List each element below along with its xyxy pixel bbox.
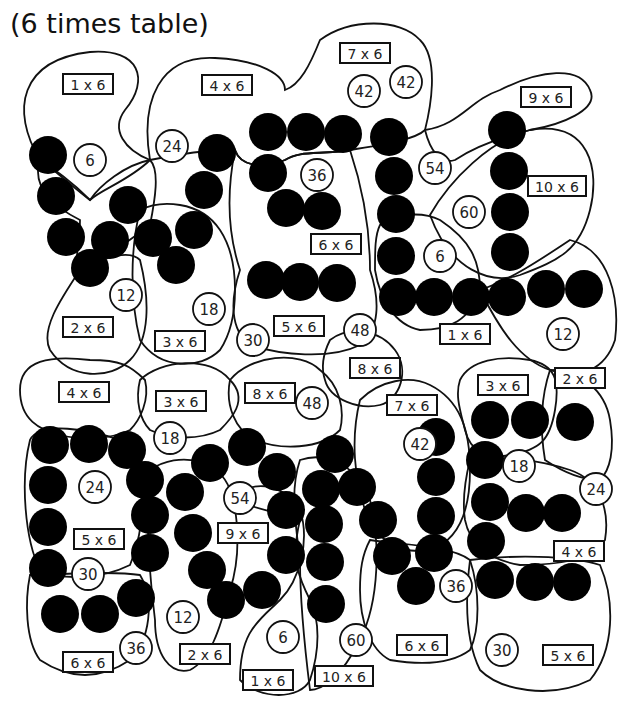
answer-circle[interactable]: 6 [267,621,299,653]
filled-dot [490,152,528,190]
svg-text:2 x 6: 2 x 6 [563,371,598,387]
multiplication-label: 5 x 6 [543,645,593,665]
filled-dot [249,113,287,151]
answer-value: 36 [307,167,326,185]
multiplication-label: 9 x 6 [218,523,268,543]
filled-dot [556,403,594,441]
filled-dot [37,177,75,215]
svg-text:6 x 6: 6 x 6 [319,237,354,253]
multiplication-label: 2 x 6 [63,317,113,337]
answer-value: 12 [553,326,572,344]
filled-dot [70,425,108,463]
answer-value: 48 [350,322,369,340]
answer-circle[interactable]: 12 [547,318,579,350]
answer-value: 30 [492,642,511,660]
answer-circle[interactable]: 12 [167,601,199,633]
answer-value: 36 [446,578,465,596]
answer-value: 30 [243,332,262,350]
answer-circle[interactable]: 36 [120,632,152,664]
filled-dot [228,428,266,466]
filled-dot [306,543,344,581]
answer-value: 60 [459,204,478,222]
multiplication-label: 3 x 6 [478,375,528,395]
answer-circle[interactable]: 60 [453,196,485,228]
multiplication-label: 6 x 6 [311,234,361,254]
answer-circle[interactable]: 42 [390,66,422,98]
answer-circle[interactable]: 30 [72,558,104,590]
answer-circle[interactable]: 36 [301,159,333,191]
answer-value: 24 [586,481,605,499]
multiplication-label: 10 x 6 [528,176,586,196]
answer-circle[interactable]: 12 [110,279,142,311]
answer-value: 54 [425,160,444,178]
multiplication-label: 7 x 6 [387,395,437,415]
svg-text:10 x 6: 10 x 6 [322,669,366,685]
answer-circle[interactable]: 42 [404,428,436,460]
filled-dot [467,522,505,560]
filled-dot [375,157,413,195]
answer-circle[interactable]: 30 [237,324,269,356]
answer-circle[interactable]: 54 [224,482,256,514]
answer-value: 24 [162,138,181,156]
filled-dot [318,264,356,302]
svg-text:3 x 6: 3 x 6 [164,394,199,410]
answer-circle[interactable]: 42 [348,75,380,107]
multiplication-label: 4 x 6 [59,382,109,402]
puzzle-board: 6244242365460612183048121848422418542430… [0,0,632,716]
filled-dot [31,426,69,464]
filled-dot [373,537,411,575]
multiplication-label: 2 x 6 [555,368,605,388]
filled-dot [338,468,376,506]
filled-dot [249,154,287,192]
filled-dot [174,514,212,552]
answer-circle[interactable]: 24 [580,473,612,505]
answer-circle[interactable]: 48 [296,387,328,419]
filled-dot [370,118,408,156]
filled-dot [29,508,67,546]
answer-value: 36 [126,640,145,658]
svg-text:5 x 6: 5 x 6 [82,532,117,548]
multiplication-label: 6 x 6 [63,652,113,672]
svg-text:1 x 6: 1 x 6 [448,327,483,343]
multiplication-label: 10 x 6 [315,666,373,686]
filled-dot [267,536,305,574]
multiplication-label: 7 x 6 [340,43,390,63]
answer-value: 6 [435,248,445,266]
answer-value: 18 [509,458,528,476]
answer-circle[interactable]: 60 [340,624,372,656]
multiplication-label: 8 x 6 [245,383,295,403]
filled-dot [417,497,455,535]
filled-dot [553,563,591,601]
svg-text:2 x 6: 2 x 6 [188,647,223,663]
answer-circle[interactable]: 18 [154,422,186,454]
answer-value: 12 [116,287,135,305]
multiplication-label: 5 x 6 [274,316,324,336]
multiplication-label: 8 x 6 [350,358,400,378]
filled-dot [267,189,305,227]
answer-circle[interactable]: 48 [344,314,376,346]
answer-value: 18 [199,301,218,319]
multiplication-label: 3 x 6 [156,391,206,411]
filled-dot [91,221,129,259]
filled-dot [511,401,549,439]
answer-circle[interactable]: 6 [424,240,456,272]
filled-dot [247,261,285,299]
svg-text:1 x 6: 1 x 6 [71,77,106,93]
filled-dot [324,115,362,153]
answer-circle[interactable]: 36 [440,570,472,602]
multiplication-label: 6 x 6 [397,635,447,655]
multiplication-label: 5 x 6 [74,529,124,549]
filled-dot [452,278,490,316]
answer-value: 60 [346,632,365,650]
answer-circle[interactable]: 24 [156,130,188,162]
answer-circle[interactable]: 30 [486,634,518,666]
filled-dot [29,549,67,587]
answer-circle[interactable]: 18 [193,293,225,325]
filled-dot [491,233,529,271]
answer-circle[interactable]: 6 [74,144,106,176]
answer-circle[interactable]: 18 [503,450,535,482]
filled-dot [117,579,155,617]
svg-text:7 x 6: 7 x 6 [395,398,430,414]
answer-circle[interactable]: 54 [419,152,451,184]
answer-circle[interactable]: 24 [79,471,111,503]
